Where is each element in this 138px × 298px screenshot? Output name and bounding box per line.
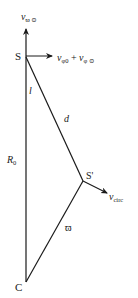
label-r0-sub: 0 (13, 159, 16, 166)
segment-s-sprime (26, 57, 83, 181)
label-distance-d: d (64, 114, 69, 124)
label-v-sub: ϖ ⊙ (25, 16, 36, 23)
label-r0: R0 (7, 155, 16, 167)
label-v-phi: vφ0 + vφ ⊙ (57, 53, 94, 65)
segment-sprime-c (26, 181, 83, 282)
label-point-s: S (15, 51, 21, 62)
label-plus: + (68, 52, 79, 63)
diagram-lines (0, 0, 138, 298)
label-varpi: ϖ (65, 223, 72, 233)
label-vcirc-sub: circ (113, 196, 123, 203)
label-angle-l: l (29, 86, 32, 96)
galactic-geometry-diagram: vϖ ⊙ S vφ0 + vφ ⊙ l d R0 S' vcirc ϖ C (0, 0, 138, 298)
vector-v-circ (83, 181, 107, 193)
label-v-circ: vcirc (109, 192, 123, 204)
label-v2-sub: φ ⊙ (84, 57, 95, 64)
label-point-sprime: S' (86, 171, 93, 181)
label-point-c: C (15, 282, 22, 293)
label-v-varpi-sun: vϖ ⊙ (21, 12, 37, 24)
